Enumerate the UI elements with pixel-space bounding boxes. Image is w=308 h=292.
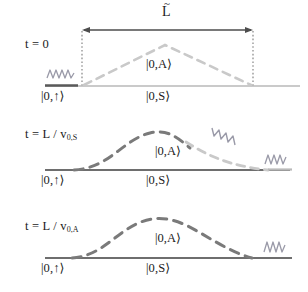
- time-label-panel-1: t = 0: [25, 38, 49, 52]
- ket-up-label-panel-1: |0,↑⟩: [41, 90, 65, 103]
- ket-s-label-panel-2: |0,S⟩: [146, 174, 170, 187]
- ket-s-label-panel-1: |0,S⟩: [146, 90, 170, 103]
- photon-squiggle-mid-right: [265, 155, 286, 164]
- time-label-panel-3-sub: 0,A: [67, 225, 79, 234]
- photon-squiggle-mid-diagonal: [212, 128, 235, 145]
- packet-label-panel-2: |0,A⟩: [155, 145, 181, 158]
- packet-envelope-mid-light: [186, 142, 268, 170]
- length-arrow: [82, 27, 253, 33]
- photon-squiggle-bottom-right: [264, 242, 285, 252]
- photon-squiggle-top-left: [47, 70, 74, 78]
- time-label-panel-2-text: t = L / v: [25, 127, 67, 141]
- ket-up-label-panel-2: |0,↑⟩: [41, 174, 65, 187]
- packet-label-panel-1: |0,A⟩: [146, 58, 172, 71]
- ket-s-label-panel-3: |0,S⟩: [146, 262, 170, 275]
- length-label: ~ L: [162, 5, 171, 19]
- time-label-panel-2-sub: 0,S: [67, 133, 77, 142]
- quantum-wavepacket-figure: ~ L t = 0 |0,A⟩ |0,↑⟩ |0,S⟩ t = L / v0,S…: [0, 0, 308, 292]
- length-label-accent: ~: [164, 0, 170, 9]
- time-label-panel-3-text: t = L / v: [25, 219, 67, 233]
- time-label-panel-1-text: t = 0: [25, 37, 49, 51]
- ket-up-label-panel-3: |0,↑⟩: [41, 262, 65, 275]
- packet-label-panel-3: |0,A⟩: [155, 232, 181, 245]
- time-label-panel-3: t = L / v0,A: [25, 220, 79, 234]
- time-label-panel-2: t = L / v0,S: [25, 128, 77, 142]
